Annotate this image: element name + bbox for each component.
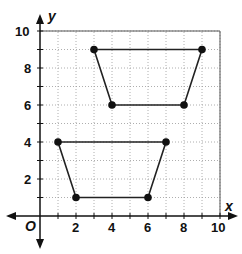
vertex-point	[72, 194, 80, 202]
vertex-point	[108, 101, 116, 109]
y-tick-label: 6	[24, 98, 31, 113]
vertex-point	[198, 46, 206, 54]
coordinate-plane	[0, 0, 242, 254]
y-tick-label: 10	[15, 24, 29, 39]
y-tick-label: 4	[24, 135, 31, 150]
grid	[40, 31, 220, 216]
x-tick-label: 2	[72, 220, 79, 235]
origin-label: O	[25, 218, 36, 234]
x-tick-label: 8	[180, 220, 187, 235]
x-axis-label: x	[225, 198, 233, 214]
x-tick-label: 10	[211, 220, 225, 235]
vertex-point	[54, 138, 62, 146]
vertex-point	[180, 101, 188, 109]
x-tick-label: 6	[144, 220, 151, 235]
y-axis-label: y	[48, 8, 56, 24]
vertex-point	[90, 46, 98, 54]
y-tick-label: 2	[24, 172, 31, 187]
y-tick-label: 8	[24, 61, 31, 76]
vertex-point	[162, 138, 170, 146]
lower-trapezoid	[58, 142, 166, 198]
vertex-point	[144, 194, 152, 202]
x-tick-label: 4	[108, 220, 115, 235]
